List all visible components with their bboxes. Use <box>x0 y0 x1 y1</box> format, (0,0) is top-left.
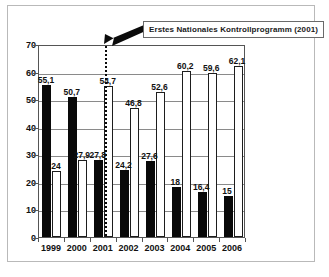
x-axis-tick <box>245 238 246 242</box>
x-axis-tick <box>116 238 117 242</box>
bar-value-label: 16,4 <box>190 182 212 192</box>
annotation-label: Erstes Nationales Kontrollprogramm (2001… <box>149 25 318 34</box>
bar <box>68 97 77 237</box>
bar <box>172 187 181 237</box>
x-axis-tick <box>219 238 220 242</box>
chart-figure: Erstes Nationales Kontrollprogramm (2001… <box>0 0 329 277</box>
bar-value-label: 60,2 <box>174 61 196 71</box>
bar-value-label: 27,8 <box>87 150 109 160</box>
x-axis-tick <box>90 238 91 242</box>
x-axis-tick <box>167 238 168 242</box>
bar-value-label: 52,6 <box>148 82 170 92</box>
bar <box>208 73 217 237</box>
bar-value-label: 46,8 <box>123 98 145 108</box>
bar <box>130 108 139 237</box>
bar <box>198 192 207 237</box>
bar <box>94 160 103 237</box>
bar <box>224 196 233 237</box>
bar-value-label: 50,7 <box>61 87 83 97</box>
x-axis-tick <box>142 238 143 242</box>
bar <box>52 171 61 237</box>
bar-value-label: 55,1 <box>35 75 57 85</box>
bar-value-label: 24 <box>45 161 67 171</box>
bar-value-label: 54,7 <box>97 76 119 86</box>
plot-area <box>38 45 245 238</box>
x-axis-tick-label: 2006 <box>217 243 247 253</box>
bar <box>234 66 243 237</box>
bar <box>78 160 87 237</box>
bar <box>156 92 165 237</box>
bar-value-label: 18 <box>164 177 186 187</box>
bar-value-label: 24,2 <box>113 160 135 170</box>
bar <box>146 161 155 237</box>
bar-value-label: 59,6 <box>200 63 222 73</box>
bar-value-label: 27,6 <box>138 151 160 161</box>
bar-value-label: 62,1 <box>226 56 248 66</box>
bar-value-label: 15 <box>216 186 238 196</box>
marker-line-2001 <box>105 46 107 237</box>
bar <box>182 71 191 237</box>
x-axis-tick <box>193 238 194 242</box>
x-axis-tick <box>38 238 39 242</box>
annotation-callout: Erstes Nationales Kontrollprogramm (2001… <box>143 21 324 38</box>
x-axis-tick <box>64 238 65 242</box>
bar <box>120 170 129 237</box>
